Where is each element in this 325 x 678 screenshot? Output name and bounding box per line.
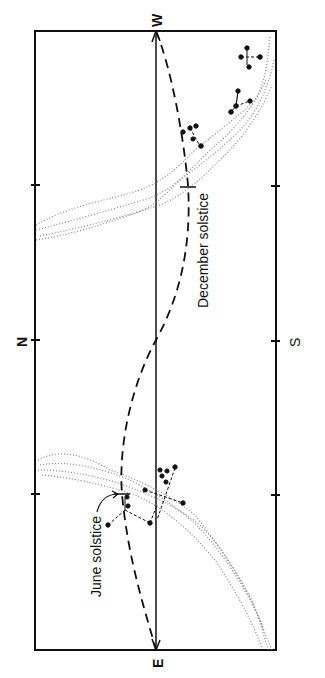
- label-june-solstice: June solstice: [88, 516, 104, 597]
- asterism-lower: [143, 465, 185, 520]
- asterism-upper-lower: [181, 124, 204, 149]
- milky-way-lower: [38, 454, 272, 650]
- sky-diagram: [0, 0, 325, 678]
- label-east: E: [150, 659, 166, 668]
- label-south: S: [287, 338, 303, 347]
- label-december-solstice: December solstice: [195, 193, 211, 308]
- sun-path-arc: [121, 31, 188, 650]
- asterism-upper-middle: [229, 89, 253, 114]
- milky-way-upper: [36, 35, 274, 240]
- label-north: N: [14, 337, 30, 347]
- asterism-top-right: [239, 46, 263, 69]
- label-west: W: [149, 14, 165, 27]
- asterism-june: [106, 495, 157, 527]
